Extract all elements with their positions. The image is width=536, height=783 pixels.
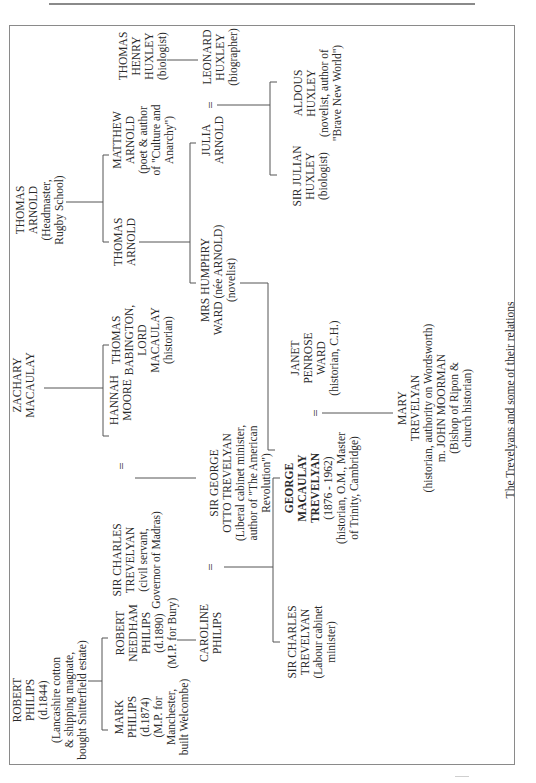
description-line: (poet & author (137, 104, 150, 175)
description-line: (historian, C.H.) (328, 320, 341, 395)
description-line: "Brave New World") (331, 45, 344, 141)
name-line: LORD (136, 305, 149, 375)
description-line: (historian) (162, 305, 175, 375)
description-line: of "Culture and (150, 104, 163, 175)
description-line: of Trinity, Cambridge) (348, 432, 361, 544)
name-line: PENROSE (302, 320, 315, 395)
name-line: SIR CHARLES (286, 605, 299, 678)
name-line: TREVELYAN (299, 605, 312, 678)
name-line: HUXLEY (214, 28, 227, 85)
description-line: Manchester, (165, 679, 178, 755)
description-line: (Bishop of Ripon & (448, 324, 461, 493)
dates-line: (1876 - 1962) (322, 432, 335, 544)
description-line: (Liberal cabinet minister, (234, 425, 247, 541)
name-line: WARD (née ARNOLD) (212, 225, 225, 336)
name-line: JULIA (200, 116, 213, 164)
spouse-line: m. JOHN MOORMAN (435, 324, 448, 493)
description-line: (M.P. for Bury) (166, 598, 179, 669)
name-line: MOORE (121, 375, 134, 425)
description-line: bought Snitterfield estate) (76, 640, 89, 759)
name-line: THOMAS (117, 32, 130, 81)
name-line: PHILIPS (126, 679, 139, 755)
description-line: Rugby School) (53, 175, 66, 244)
name-line: MACAULAY (24, 352, 37, 417)
name-line: TREVELYAN (309, 432, 322, 544)
description-line: Governor of Madras) (150, 511, 163, 609)
name-line: PHILIPS (24, 640, 37, 759)
description-line: built Welcombe) (178, 679, 191, 755)
name-line: TREVELYAN (409, 324, 422, 493)
description-line: author of "The American (247, 425, 260, 541)
name-line: ARNOLD (213, 116, 226, 164)
description-line: (Lancashire cotton (50, 640, 63, 759)
description-line: (M.P. for (152, 679, 165, 755)
name-line: HUXLEY (305, 45, 318, 141)
name-line: JANET (289, 320, 302, 395)
name-line: THOMAS (110, 305, 123, 375)
name-line: HANNAH (108, 375, 121, 425)
name-line: OTTO TREVELYAN (221, 425, 234, 541)
name-line: ARNOLD (27, 175, 40, 244)
name-line: TREVELYAN (124, 511, 137, 609)
description-line: (historian, authority on Wordsworth) (422, 324, 435, 493)
name-line: GEORGE (283, 432, 296, 544)
name-line: MARK (113, 679, 126, 755)
name-line: SIR CHARLES (111, 511, 124, 609)
name-line: ALDOUS (292, 45, 305, 141)
name-line: WARD (315, 320, 328, 395)
name-line: MACAULAY (149, 305, 162, 375)
description-line: Anarchy") (163, 104, 176, 175)
name-line: MATTHEW (111, 104, 124, 175)
name-line: SIR GEORGE (208, 425, 221, 541)
description-line: church historian) (461, 324, 474, 493)
name-line: ZACHARY (11, 352, 24, 417)
name-line: ARNOLD (125, 218, 138, 267)
description-line: (civil servant, (137, 511, 150, 609)
description-line: (biologist) (156, 32, 169, 81)
name-line: ARNOLD (124, 104, 137, 175)
description-line: (novelist, author of (318, 45, 331, 141)
description-line: (Labour cabinet (312, 605, 325, 678)
name-line: MRS HUMPHRY (199, 225, 212, 336)
name-line: SIR JULIAN (291, 145, 304, 206)
description-line: (biographer) (227, 28, 240, 85)
name-line: THOMAS (14, 175, 27, 244)
dates-line: (d.1874) (139, 679, 152, 755)
description-line: (biologist) (317, 145, 330, 206)
description-line: (historian, O.M., Master (335, 432, 348, 544)
name-line: BABINGTON, (123, 305, 136, 375)
page-number-mark (455, 776, 469, 781)
name-line: CAROLINE (198, 604, 211, 662)
name-line: HUXLEY (143, 32, 156, 81)
description-line: (novelist) (225, 225, 238, 336)
name-line: HENRY (130, 32, 143, 81)
name-line: MARY (396, 324, 409, 493)
description-line: minister) (325, 605, 338, 678)
name-line: LEONARD (201, 28, 214, 85)
name-line: PHILIPS (211, 604, 224, 662)
description-line: (Headmaster, (40, 175, 53, 244)
name-line: ROBERT (11, 640, 24, 759)
name-line: HUXLEY (304, 145, 317, 206)
description-line: & shipping magnate, (63, 640, 76, 759)
description-line: Revolution") (260, 425, 273, 541)
dates-line: (d.1844) (37, 640, 50, 759)
name-line: THOMAS (112, 218, 125, 267)
name-line: MACAULAY (296, 432, 309, 544)
